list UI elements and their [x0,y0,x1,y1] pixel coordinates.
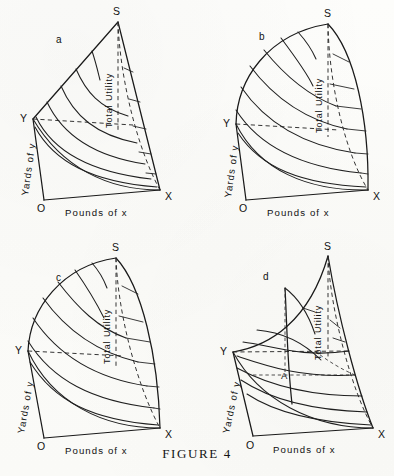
panel-a-tick-2 [129,99,140,102]
panel-b-yaxis-label: Yards of y [222,144,240,198]
panel-c-drawing: c S Y O X Pounds [0,238,197,476]
panel-a-surface-label: Total Utility [104,73,114,128]
panel-a-vertex-s: S [113,5,120,17]
panel-b-contour-5 [241,87,355,153]
panel-a-contour-2 [76,69,128,116]
panel-b-tick-1 [333,54,349,62]
panel-c-tick-4 [138,362,155,364]
panel-b-xaxis-label: Pounds of x [267,207,330,218]
panel-d-letter: d [263,271,269,282]
panel-c-contour-4 [43,298,138,362]
panel-c-axis-ox [44,428,160,438]
panel-a-letter: a [56,34,62,45]
panel-b-contour-6 [236,110,361,173]
panel-b-tick-3 [336,106,361,109]
panel-b-vertex-x: X [373,190,380,202]
panel-c-contour-6 [28,341,154,408]
panel-d-vertex-x: X [378,428,385,440]
panel-b-contour-4 [250,66,347,129]
panel-b-drawing: b S Y O [197,0,394,238]
panel-a-vertex-x: X [165,190,172,202]
panel-c-tick-2 [119,316,143,322]
panel-b: b S Y O [197,0,394,238]
panel-d-yaxis-label: Yards of y [220,380,242,435]
panel-d-vertex-y: Y [220,345,227,357]
panel-a-xaxis-label: Pounds of x [65,207,128,218]
panel-d-axis-ox [253,428,373,436]
panel-c-contour-5 [33,318,147,386]
figure-caption-text: FIGURE 4 [162,446,232,461]
panel-a-edge-sx [118,22,160,190]
panel-c-vertex-x: X [165,428,172,440]
panel-b-vertex-y: Y [223,117,230,129]
panel-c-vertex-s: S [112,241,119,253]
panel-a-tick-5 [146,173,156,174]
panel-c-contour-2 [75,270,104,318]
panel-a-front-edge [33,119,160,190]
panel-c: c S Y O X Pounds [0,238,197,476]
panel-c-letter: c [56,272,61,283]
panel-d-contour-2 [257,330,321,360]
panel-a-vertex-y: Y [20,112,27,124]
panel-a-tick-4 [139,152,151,154]
panel-d-tick-3 [333,338,345,342]
panel-d-surface-label: Total Utility [313,305,323,360]
panel-c-contour-1 [92,263,107,288]
panel-b-vertex-s: S [324,7,331,19]
panel-a-yaxis-label: Yards of y [19,142,37,196]
panel-a-axis-ox [44,190,160,200]
panel-d-point-a-label: A [281,370,288,381]
panel-d-vertex-s: S [324,240,331,252]
panel-c-yaxis-label: Yards of y [15,380,35,435]
panel-b-tick-4 [347,129,366,131]
panel-b-contour-1 [298,32,316,59]
panel-b-contour-3 [264,50,336,106]
figure-page: a [0,0,394,476]
panel-c-tick-3 [126,338,150,342]
panel-d-drawing: d [197,238,394,476]
panel-b-axis-ox [246,190,368,200]
panel-b-vertex-o: O [239,202,247,214]
panel-a-drawing: a [0,0,197,238]
panel-a-contour-6 [35,127,157,187]
panel-d-edge-sx [328,256,373,428]
panel-a-contour-1 [92,51,100,80]
panel-a-vertex-o: O [37,202,45,214]
panel-a: a [0,0,197,238]
figure-caption: FIGURE 4 [0,446,394,462]
panel-d-tick-2 [330,320,340,328]
panel-c-vertex-y: Y [15,344,22,356]
panel-b-letter: b [259,31,265,42]
panel-a-tick-1 [124,68,133,72]
panel-b-tick-5 [355,153,368,154]
panel-d-contour-7 [247,394,371,425]
panel-d: d [197,238,394,476]
panel-b-tick-6 [361,173,368,174]
panel-b-surface-label: Total Utility [314,78,324,133]
panel-d-contour-1 [285,288,315,334]
panel-c-surface-label: Total Utility [102,309,112,364]
panel-d-ridge-dashed [328,256,373,428]
